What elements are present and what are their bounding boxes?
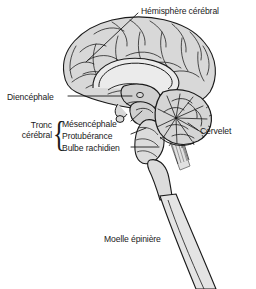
label-cervelet: Cervelet — [200, 126, 231, 136]
label-bulbe-rachidien: Bulbe rachidien — [62, 143, 120, 153]
label-tronc-cerebral: Tronc cérébral — [8, 120, 52, 140]
label-hemisphere-cerebral: Hémisphère cérébral — [141, 6, 219, 16]
brain-anatomy-figure: Hémisphère cérébral Diencéphale Tronc cé… — [0, 0, 256, 289]
label-moelle-epiniere: Moelle épinière — [104, 234, 161, 244]
label-mesencephale: Mésencéphale — [62, 119, 117, 129]
label-protuberance: Protubérance — [62, 131, 112, 141]
bulbe-rachidien-shape — [148, 160, 172, 200]
moelle-epiniere-shape — [160, 194, 216, 289]
brain-diagram-svg — [0, 0, 256, 289]
label-diencephale: Diencéphale — [7, 92, 54, 102]
